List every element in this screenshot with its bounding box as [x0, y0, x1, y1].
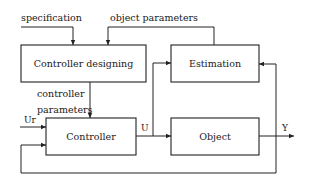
estimation-label: Estimation — [189, 58, 241, 69]
object-parameters-arrow — [108, 27, 214, 45]
controller-block: Controller — [46, 118, 136, 155]
controller-parameters-label-2: parameters — [37, 104, 93, 115]
block-diagram: specification object parameters Controll… — [0, 0, 309, 182]
object-parameters-label: object parameters — [110, 12, 198, 23]
object-label: Object — [199, 131, 231, 142]
controller-parameters-label-1: controller — [37, 88, 85, 99]
y-label: Y — [281, 123, 289, 133]
ur-label: Ur — [24, 115, 37, 125]
controller-designing-label: Controller designing — [34, 58, 134, 69]
object-block: Object — [171, 118, 259, 155]
specification-arrow — [21, 27, 73, 45]
estimation-block: Estimation — [171, 45, 259, 82]
controller-label: Controller — [66, 131, 116, 142]
specification-label: specification — [21, 12, 82, 23]
u-to-estimation-arrow — [153, 63, 171, 136]
controller-designing-block: Controller designing — [21, 45, 146, 82]
y-to-estimation-arrow — [259, 64, 276, 173]
u-label: U — [141, 123, 149, 133]
